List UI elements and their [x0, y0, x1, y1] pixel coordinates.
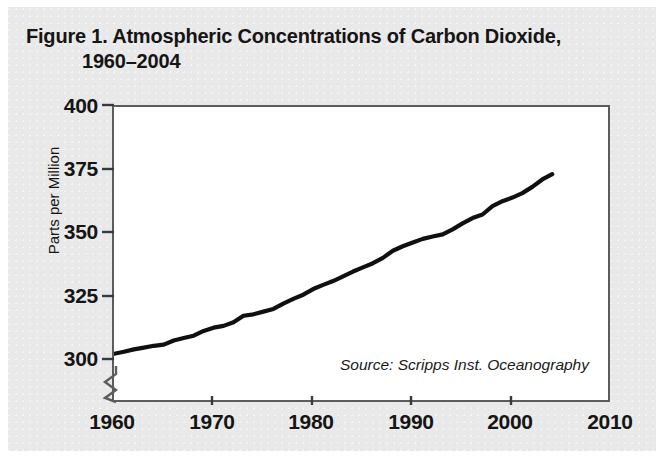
- y-axis-title: Parts per Million: [45, 106, 62, 296]
- figure-title-line-1: Figure 1. Atmospheric Concentrations of …: [26, 24, 626, 49]
- x-tick-label-2000: 2000: [465, 410, 555, 434]
- x-axis: 1960 1970 1980 1990 2000 2010: [0, 410, 664, 444]
- x-tick-label-1990: 1990: [366, 410, 456, 434]
- source-annotation: Source: Scripps Inst. Oceanography: [340, 356, 589, 374]
- x-tick-label-1980: 1980: [266, 410, 356, 434]
- x-tick-marks: [112, 396, 612, 410]
- y-tick-marks: [96, 96, 120, 406]
- y-tick-label-375: 375: [24, 157, 98, 181]
- figure-title-line-2: 1960–2004: [26, 49, 626, 74]
- y-tick-label-400: 400: [24, 94, 98, 118]
- y-tick-label-300: 300: [24, 347, 98, 371]
- x-tick-label-1970: 1970: [167, 410, 257, 434]
- x-tick-label-2010: 2010: [565, 410, 655, 434]
- y-axis: Parts per Million 400 375 350 325 300: [18, 0, 98, 467]
- figure-title: Figure 1. Atmospheric Concentrations of …: [26, 24, 626, 74]
- y-tick-label-325: 325: [24, 284, 98, 308]
- figure-container: Figure 1. Atmospheric Concentrations of …: [0, 0, 664, 467]
- co2-data-line: [114, 174, 552, 354]
- y-tick-label-350: 350: [24, 220, 98, 244]
- x-tick-label-1960: 1960: [67, 410, 157, 434]
